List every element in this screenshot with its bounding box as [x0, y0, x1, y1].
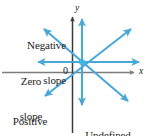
label-negative-slope-line1: Negative	[4, 40, 66, 52]
label-positive-slope: Positive slope	[2, 93, 58, 136]
label-undefined-slope-line1: Undefined	[76, 130, 140, 136]
label-positive-slope-line1: Positive	[2, 116, 58, 128]
rays-intersection-point	[79, 59, 85, 65]
slope-figure: y x 0 Negative slope Zero slope Positive…	[0, 0, 148, 136]
label-undefined-slope: Undefined slope	[76, 107, 140, 136]
y-axis-label: y	[75, 3, 79, 13]
label-zero-slope-line1: Zero	[4, 76, 58, 88]
x-axis-label: x	[139, 66, 143, 76]
